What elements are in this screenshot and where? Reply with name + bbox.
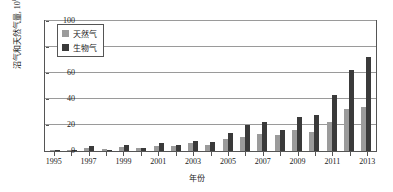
x-axis-tick-label-text: 2009 (290, 157, 306, 166)
legend-label-natural-gas: 天然气 (73, 28, 97, 39)
bar-group (219, 21, 236, 151)
chart-legend: 天然气 生物气 (57, 24, 104, 57)
bar-group (271, 21, 288, 151)
y-axis-tick-label: 40 (49, 95, 75, 103)
bar (297, 117, 302, 151)
x-axis-tick-label-text: 2005 (220, 157, 236, 166)
x-axis-tick-label (167, 157, 184, 169)
bar (314, 115, 319, 151)
bar (89, 146, 94, 151)
bar-group (323, 21, 340, 151)
x-axis-tick-label: 2003 (184, 157, 201, 169)
y-axis-title: 沼气和天然气量, 108m3 (11, 0, 25, 95)
bar-group (288, 21, 305, 151)
bar (245, 125, 250, 151)
bar-group (133, 21, 150, 151)
x-axis-tick-label: 1999 (115, 157, 132, 169)
x-axis-tick-label (237, 157, 254, 169)
bar-group (202, 21, 219, 151)
x-axis-tick-label: 1997 (80, 157, 97, 169)
bar (193, 141, 198, 151)
bar (176, 145, 181, 151)
bar-group (358, 21, 375, 151)
x-axis-ticks: 1995199719992001200320052007200920112013 (44, 157, 377, 169)
bar (366, 57, 371, 151)
x-axis-tick-label-text: 2001 (150, 157, 166, 166)
chart-container: 沼气和天然气量, 108m3 020406080100 199519971999… (0, 0, 393, 192)
x-axis-tick-label (271, 157, 288, 169)
bar (124, 145, 129, 152)
y-axis-tick-label: 20 (49, 121, 75, 129)
legend-item-biogenic-gas: 生物气 (62, 42, 97, 53)
bar (107, 150, 112, 151)
x-axis-tick-label-text: 2007 (255, 157, 271, 166)
bar (141, 148, 146, 151)
y-axis-tickmark (46, 73, 49, 74)
x-axis-tick-label: 2013 (359, 157, 376, 169)
bar (349, 70, 354, 151)
legend-item-natural-gas: 天然气 (62, 28, 97, 39)
bar (262, 122, 267, 151)
x-axis-tick-label (306, 157, 323, 169)
bar-group (306, 21, 323, 151)
y-axis-tickmark (46, 125, 49, 126)
bar-group (167, 21, 184, 151)
legend-swatch-icon-biogenic-gas (62, 44, 69, 51)
x-axis-tick-label (97, 157, 114, 169)
y-axis-title-text: 沼气和天然气量, 10 (13, 1, 22, 69)
x-axis-tick-label-text: 1997 (81, 157, 97, 166)
y-axis-title-exponent: 8 (11, 0, 17, 1)
x-axis-tick-label: 2001 (150, 157, 167, 169)
x-axis-tick-label: 2011 (324, 157, 341, 169)
x-axis-tick-label-text: 1999 (115, 157, 131, 166)
x-axis-tick-label-text: 2003 (185, 157, 201, 166)
legend-label-biogenic-gas: 生物气 (73, 42, 97, 53)
x-axis-tick-label (341, 157, 358, 169)
bar (159, 143, 164, 151)
y-axis-tickmark (46, 47, 49, 48)
bar-group (236, 21, 253, 151)
x-axis-tick-label: 2005 (219, 157, 236, 169)
x-axis-tick-label-text: 2013 (359, 157, 375, 166)
y-axis-tickmark (46, 21, 49, 22)
x-axis-tick-label (132, 157, 149, 169)
bar (210, 142, 215, 151)
x-axis-tick-label-text: 1995 (46, 157, 62, 166)
x-axis-tick-label: 2007 (254, 157, 271, 169)
bar-group (150, 21, 167, 151)
x-axis-title: 年份 (0, 172, 393, 183)
x-axis-tick-label (202, 157, 219, 169)
y-axis-tickmark (46, 99, 49, 100)
x-axis-tick-label: 1995 (45, 157, 62, 169)
x-axis-tick-label: 2009 (289, 157, 306, 169)
bar (228, 133, 233, 151)
bar-group (115, 21, 132, 151)
x-axis-tick-label (62, 157, 79, 169)
bar-group (254, 21, 271, 151)
bar-group (185, 21, 202, 151)
bar-group (340, 21, 357, 151)
y-axis-tick-label: 60 (49, 69, 75, 77)
bar (332, 95, 337, 151)
bar (280, 130, 285, 151)
legend-swatch-icon-natural-gas (62, 30, 69, 37)
x-axis-tick-label-text: 2011 (325, 157, 341, 166)
